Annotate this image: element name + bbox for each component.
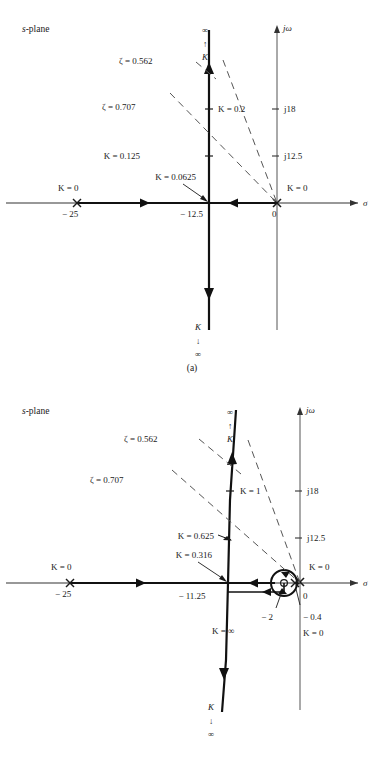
damping-label-0562-a: ζ = 0.562 — [119, 56, 153, 66]
zero-leader-minus2-b — [276, 594, 281, 608]
gain-label-pole-origin-b: K = 0 — [309, 562, 330, 572]
imag-axis-arrow-a — [274, 25, 280, 33]
gain-label-0625-b: K = 0.625 — [178, 531, 215, 541]
figure-a: σ jω j18 j12.5 s-plane — [0, 0, 384, 380]
figure-b: σ jω j18 j12.5 s-plane — [0, 380, 384, 760]
branch-bottom-arrow-b: ↓ — [209, 716, 213, 726]
vertical-locus-a — [204, 30, 214, 330]
gain-label-pole-minus25-b: K = 0 — [51, 562, 72, 572]
gain-tick-group-b: K = 1 K = 0.625 — [178, 486, 261, 541]
breakaway-label-a: − 12.5 — [180, 209, 204, 219]
gain-label-0316-b: K = 0.316 — [176, 550, 213, 560]
damping-ray-0562-a — [223, 60, 277, 203]
gain-label-pole-origin-a: K = 0 — [287, 183, 308, 193]
locus-feeder-arrow-b — [262, 588, 271, 596]
pole-label-origin-b: 0 — [303, 591, 308, 601]
damping-label-0562-b: ζ = 0.562 — [124, 434, 158, 444]
real-axis-label-b: σ — [363, 578, 368, 588]
pole-label-minus25-b: − 25 — [55, 589, 72, 599]
real-locus-segment-left-a — [77, 199, 209, 208]
gain-label-00625-a: K = 0.0625 — [155, 172, 196, 182]
branch-top-gain-a: K — [201, 52, 209, 62]
branch-bottom-gain-a: K — [194, 322, 202, 332]
figure-a-caption: (a) — [0, 363, 384, 373]
imag-tick-label-j125-b: j12.5 — [306, 533, 326, 543]
imag-axis-label-a: jω — [282, 23, 292, 33]
damping-line-0562-a — [223, 60, 277, 203]
damping-leader-0562-a — [196, 62, 216, 79]
locus-arrow-up-a — [204, 62, 214, 74]
breakaway-label-b: − 11.25 — [178, 591, 206, 601]
imag-axis-group-a: jω — [274, 23, 292, 330]
branch-top-gain-b: K — [226, 434, 234, 444]
branch-bottom-arrow-a: ↓ — [196, 336, 200, 346]
gain-label-infinity-b: K = ∞ — [212, 626, 235, 636]
damping-line-0707-b — [172, 470, 300, 583]
imag-tick-label-j18-b: j18 — [306, 486, 319, 496]
real-axis-arrow-b — [350, 580, 358, 586]
damping-label-0707-b: ζ = 0.707 — [90, 475, 124, 485]
branch-bottom-annotation-b: K ↓ ∞ — [207, 702, 215, 739]
branch-top-limit-b: ∞ — [227, 407, 233, 417]
plane-label-a: s-plane — [22, 24, 49, 34]
branch-top-arrow-b: ↑ — [228, 421, 232, 431]
damping-line-0562-b — [248, 440, 300, 583]
pole-leader-minus04-b — [296, 589, 300, 605]
real-locus-segment-right-a — [209, 199, 277, 208]
gain-label-pole-minus25-a: K = 0 — [58, 183, 79, 193]
real-locus-segment-mid-b — [228, 579, 275, 588]
figure-a-canvas: σ jω j18 j12.5 s-plane — [0, 0, 384, 380]
branch-bottom-limit-b: ∞ — [208, 729, 214, 739]
damping-ray-0562-b — [248, 440, 300, 583]
gain-label-0125-a: K = 0.125 — [104, 151, 141, 161]
gain-tick-group-a: K = 0.2 K = 0.125 — [104, 104, 246, 161]
pole-label-minus04-b: − 0.4 — [303, 612, 322, 622]
locus-arrow-left-b — [136, 579, 146, 588]
imag-axis-arrow-b — [297, 407, 303, 415]
branch-top-annotation-a: ∞ ↑ K — [201, 25, 209, 62]
damping-ray-0707-b — [172, 470, 300, 583]
real-axis-label-a: σ — [363, 198, 368, 208]
pole-label-minus25-a: − 25 — [62, 209, 79, 219]
zero-label-minus2-b: − 2 — [261, 612, 273, 622]
gain-leader-00625-a — [183, 184, 208, 202]
root-locus-page: σ jω j18 j12.5 s-plane — [0, 0, 384, 760]
locus-arrow-down-b — [219, 668, 229, 680]
imag-axis-group-b: jω — [297, 405, 315, 710]
branch-bottom-limit-a: ∞ — [195, 349, 201, 359]
imag-tick-label-j18-a: j18 — [283, 104, 296, 114]
branch-bottom-annotation-a: K ↓ ∞ — [194, 322, 202, 359]
real-locus-segment-left-b — [70, 579, 228, 588]
branch-top-limit-a: ∞ — [202, 25, 208, 35]
branch-bottom-gain-b: K — [207, 702, 215, 712]
gain-label-pole-minus04-b: K = 0 — [303, 628, 324, 638]
locus-vertical-b — [222, 410, 236, 712]
gain-label-02-a: K = 0.2 — [218, 104, 245, 114]
branch-top-arrow-a: ↑ — [203, 39, 207, 49]
locus-arrow-down-a — [204, 288, 214, 300]
branch-top-annotation-b: ∞ ↑ K — [226, 407, 234, 444]
locus-arrow-mid-b — [248, 579, 258, 588]
gain-leader-0316-b — [198, 562, 227, 582]
locus-arrow-right-a — [228, 199, 238, 208]
figure-b-canvas: σ jω j18 j12.5 s-plane — [0, 380, 384, 760]
vertical-locus-b — [219, 410, 237, 712]
damping-label-0707-a: ζ = 0.707 — [102, 102, 136, 112]
plane-label-b: s-plane — [22, 406, 49, 416]
gain-label-1-b: K = 1 — [240, 486, 261, 496]
imag-tick-label-j125-a: j12.5 — [283, 151, 303, 161]
pole-label-origin-a: 0 — [272, 209, 277, 219]
imag-axis-label-b: jω — [305, 405, 315, 415]
real-axis-arrow-a — [350, 200, 358, 206]
locus-arrow-left-a — [140, 199, 150, 208]
circle-arrow-top-b — [281, 572, 290, 579]
